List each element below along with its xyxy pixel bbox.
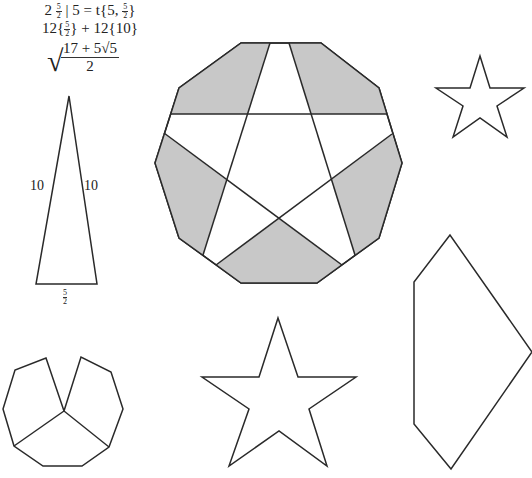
kite-polygon (414, 235, 532, 469)
small-pentagram-star (436, 56, 524, 137)
triangle-right-side-label: 10 (84, 178, 98, 194)
decagon-pentagram (155, 43, 402, 283)
fraction-denominator: 2 (63, 297, 67, 306)
triangle-left-side-label: 10 (30, 178, 44, 194)
dissected-decagon (3, 357, 123, 466)
large-pentagram-star (202, 318, 356, 466)
triangle-base-label: 5 2 (63, 289, 67, 306)
geometry-figures (0, 0, 532, 478)
